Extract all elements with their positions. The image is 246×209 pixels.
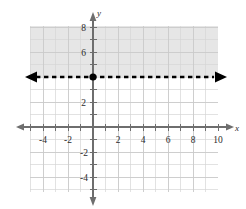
x-tick-label: 10	[213, 135, 223, 145]
x-tick-label: 2	[116, 135, 121, 145]
x-tick-label: 4	[141, 135, 146, 145]
y-tick-label: -4	[80, 173, 88, 183]
y-axis-name-label: y	[96, 8, 101, 18]
y-tick-label: -2	[80, 148, 88, 158]
x-tick-label: -2	[64, 135, 72, 145]
y-tick-label: 6	[81, 48, 86, 58]
y-intercept-point	[89, 73, 96, 80]
y-tick-label: 8	[81, 23, 86, 33]
graph-canvas: -4 -2 2 4 6 8 10 8 6 2 -2 -4 x y	[0, 0, 246, 209]
x-tick-label: 6	[166, 135, 171, 145]
x-axis-name-label: x	[234, 123, 239, 133]
x-tick-label: -4	[39, 135, 47, 145]
shaded-solution-region	[30, 26, 218, 77]
y-tick-label: 2	[81, 98, 86, 108]
coordinate-plane-figure: -4 -2 2 4 6 8 10 8 6 2 -2 -4 x y	[0, 0, 246, 209]
x-tick-label: 8	[191, 135, 196, 145]
